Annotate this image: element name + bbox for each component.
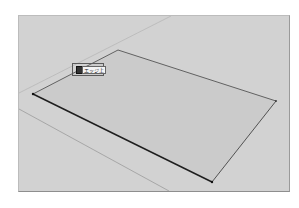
rectangle-face[interactable] <box>33 50 276 182</box>
inference-tooltip: エッジ上 <box>82 66 106 74</box>
vertex-right[interactable] <box>275 100 277 102</box>
vertex-left[interactable] <box>32 93 34 95</box>
scene-canvas[interactable] <box>19 16 289 191</box>
sketchup-viewport[interactable]: エッジ上 <box>18 15 290 192</box>
vertex-bottom[interactable] <box>211 181 213 183</box>
